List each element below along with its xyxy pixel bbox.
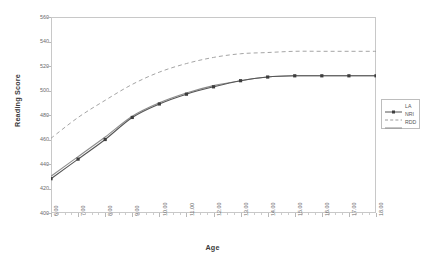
legend-item-nri: NRI	[384, 110, 416, 118]
x-tick-minor-mark	[207, 213, 208, 215]
x-tick-minor-mark	[254, 213, 255, 215]
x-tick-minor-mark	[92, 213, 93, 215]
x-tick-minor-mark	[112, 213, 113, 215]
x-tick-minor-mark	[261, 213, 262, 215]
x-tick-minor-mark	[288, 213, 289, 215]
x-tick-mark	[78, 213, 79, 217]
x-tick-minor-mark	[227, 213, 228, 215]
x-tick-mark	[295, 213, 296, 217]
legend-label: RDD	[405, 118, 416, 126]
x-tick-minor-mark	[342, 213, 343, 215]
x-tick-minor-mark	[166, 213, 167, 215]
legend-item-rdd: RDD	[384, 118, 416, 126]
x-tick-minor-mark	[65, 213, 66, 215]
x-tick-minor-mark	[356, 213, 357, 215]
legend-swatch-rdd-icon	[384, 118, 403, 126]
x-tick-minor-mark	[234, 213, 235, 215]
x-tick-minor-mark	[274, 213, 275, 215]
x-tick-minor-mark	[193, 213, 194, 215]
x-tick-mark	[186, 213, 187, 217]
x-tick-minor-mark	[335, 213, 336, 215]
x-tick-mark	[349, 213, 350, 217]
chart-legend: LANRIRDD	[381, 99, 420, 129]
x-tick-minor-mark	[247, 213, 248, 215]
x-tick-minor-mark	[200, 213, 201, 215]
x-tick-mark	[214, 213, 215, 217]
x-tick-mark	[376, 213, 377, 217]
x-tick-mark	[322, 213, 323, 217]
x-tick-minor-mark	[146, 213, 147, 215]
x-tick-minor-mark	[125, 213, 126, 215]
x-tick-mark	[159, 213, 160, 217]
legend-label: NRI	[405, 110, 414, 118]
x-axis-title: Age	[0, 243, 425, 252]
x-axis-ticks: 6.007.008.009.0010.0011.0012.0013.0014.0…	[0, 0, 445, 261]
x-tick-mark	[51, 213, 52, 217]
x-tick-minor-mark	[281, 213, 282, 215]
legend-swatch-nri-icon	[384, 110, 403, 118]
x-tick-minor-mark	[220, 213, 221, 215]
x-tick-minor-mark	[71, 213, 72, 215]
legend-label: LA	[405, 102, 411, 110]
x-tick-minor-mark	[119, 213, 120, 215]
x-tick-minor-mark	[369, 213, 370, 215]
reading-score-line-chart: Reading Score 40042044046048050052054056…	[0, 0, 445, 261]
x-tick-minor-mark	[362, 213, 363, 215]
x-tick-minor-mark	[308, 213, 309, 215]
x-tick-minor-mark	[180, 213, 181, 215]
x-tick-minor-mark	[329, 213, 330, 215]
x-tick-minor-mark	[85, 213, 86, 215]
legend-item-la: LA	[384, 102, 416, 110]
x-tick-minor-mark	[173, 213, 174, 215]
x-tick-mark	[132, 213, 133, 217]
x-tick-minor-mark	[139, 213, 140, 215]
x-tick-minor-mark	[315, 213, 316, 215]
legend-swatch-la-icon	[384, 102, 403, 110]
x-tick-minor-mark	[302, 213, 303, 215]
x-tick-minor-mark	[98, 213, 99, 215]
x-tick-label: 18.00	[378, 203, 384, 217]
x-tick-minor-mark	[58, 213, 59, 215]
x-tick-minor-mark	[153, 213, 154, 215]
x-tick-mark	[268, 213, 269, 217]
x-tick-mark	[241, 213, 242, 217]
x-tick-mark	[105, 213, 106, 217]
